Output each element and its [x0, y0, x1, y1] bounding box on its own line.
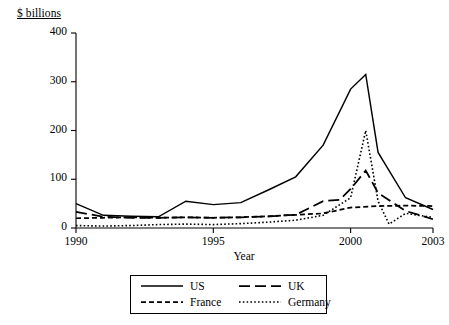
- series-line-uk: [76, 170, 433, 219]
- legend-label: France: [190, 296, 221, 308]
- x-axis-tick-label: 2003: [413, 235, 449, 247]
- x-axis-tick-label: 1995: [193, 235, 233, 247]
- axes: [76, 33, 433, 228]
- x-axis-title: Year: [214, 250, 274, 262]
- series-line-germany: [76, 131, 433, 227]
- y-axis-tick-label: 100: [33, 171, 67, 183]
- legend-item-uk[interactable]: UK: [239, 280, 305, 292]
- y-axis-tick-label: 0: [33, 220, 67, 232]
- x-axis-tick-label: 2000: [331, 235, 371, 247]
- series-line-us: [76, 74, 433, 216]
- legend-item-us[interactable]: US: [141, 280, 205, 292]
- legend-swatch-germany-icon: [239, 297, 281, 307]
- data-series-group: [76, 74, 433, 226]
- legend-item-germany[interactable]: Germany: [239, 296, 331, 308]
- legend-label: UK: [288, 280, 305, 292]
- chart-legend: USUKFranceGermany: [130, 275, 327, 314]
- x-axis-ticks: [76, 228, 433, 233]
- legend-swatch-uk-icon: [239, 281, 281, 291]
- y-axis-tick-label: 300: [33, 74, 67, 86]
- legend-item-france[interactable]: France: [141, 296, 221, 308]
- x-axis-tick-label: 1990: [56, 235, 96, 247]
- y-axis-ticks: [71, 33, 76, 228]
- legend-swatch-france-icon: [141, 297, 183, 307]
- legend-swatch-us-icon: [141, 281, 183, 291]
- y-axis-tick-label: 200: [33, 123, 67, 135]
- legend-label: Germany: [288, 296, 331, 308]
- legend-label: US: [190, 280, 205, 292]
- y-axis-tick-label: 400: [33, 25, 67, 37]
